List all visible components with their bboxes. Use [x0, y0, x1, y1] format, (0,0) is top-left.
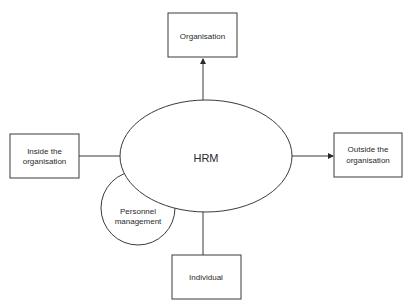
personnel-label-line1: Personnel: [120, 207, 156, 216]
inside-organisation-box: [10, 134, 79, 178]
organisation-label: Organisation: [180, 32, 225, 41]
hrm-label: HRM: [193, 152, 218, 164]
individual-label: Individual: [189, 273, 223, 282]
outside-label-line1: Outside the: [348, 145, 389, 154]
inside-label-line2: organisation: [23, 157, 67, 166]
outside-organisation-box: [334, 133, 402, 177]
hrm-diagram: HRM Organisation Inside the organisation…: [0, 0, 413, 306]
outside-label-line2: organisation: [346, 156, 390, 165]
inside-label-line1: Inside the: [27, 147, 62, 156]
personnel-label-line2: management: [115, 217, 162, 226]
